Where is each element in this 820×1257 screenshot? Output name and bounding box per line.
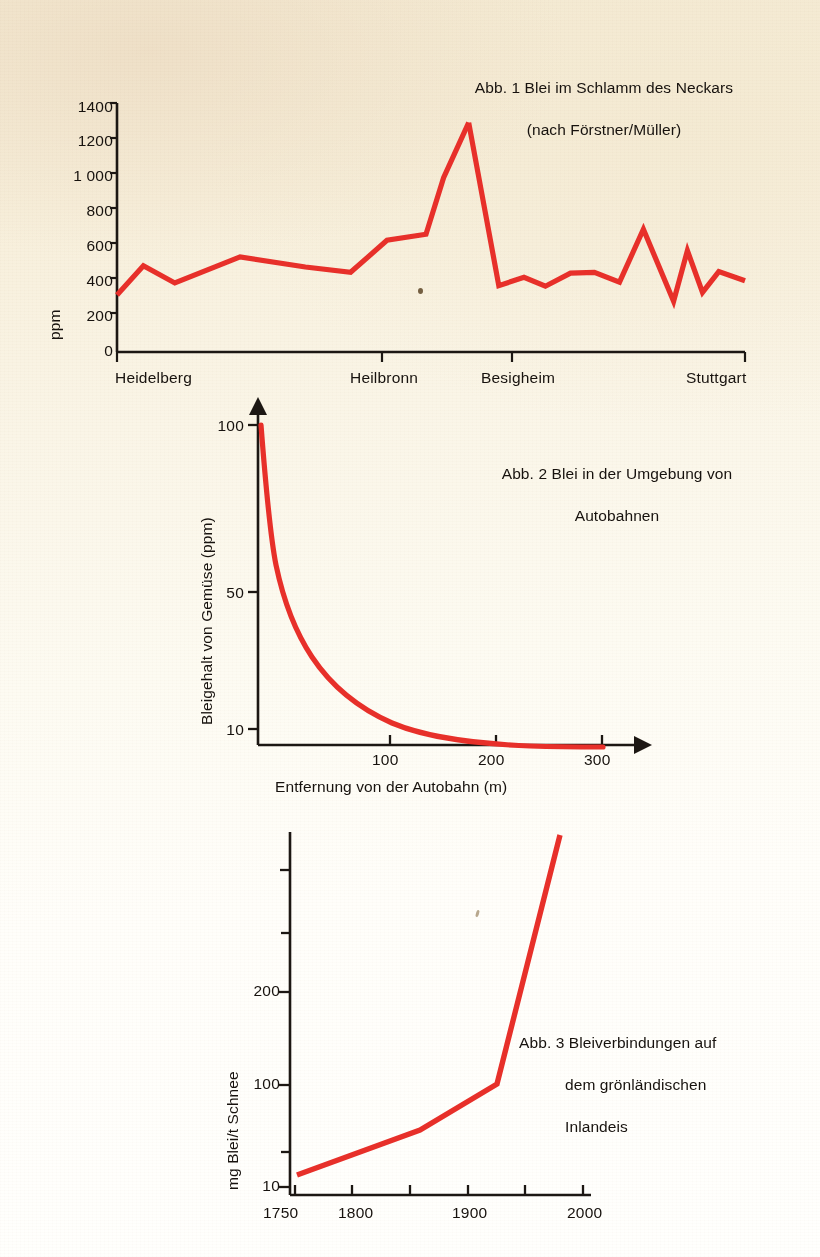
figure-abb1: Abb. 1 Blei im Schlamm des Neckars (nach… bbox=[0, 0, 820, 400]
figure-abb3: Abb. 3 Bleiverbindungen auf dem grönländ… bbox=[0, 800, 820, 1257]
abb2-x-axis-arrow bbox=[634, 736, 652, 754]
abb1-data-line-a bbox=[117, 123, 469, 296]
abb3-plot bbox=[0, 800, 820, 1257]
abb3-data-line bbox=[297, 835, 560, 1175]
page-root: Abb. 1 Blei im Schlamm des Neckars (nach… bbox=[0, 0, 820, 1257]
paper-speck-1 bbox=[418, 288, 423, 294]
abb2-data-curve bbox=[261, 425, 603, 747]
abb2-plot bbox=[0, 395, 820, 795]
abb1-data-line-b bbox=[469, 123, 745, 302]
abb1-plot bbox=[0, 0, 820, 400]
abb2-y-axis-arrow bbox=[249, 397, 267, 415]
figure-abb2: Abb. 2 Blei in der Umgebung von Autobahn… bbox=[0, 395, 820, 795]
